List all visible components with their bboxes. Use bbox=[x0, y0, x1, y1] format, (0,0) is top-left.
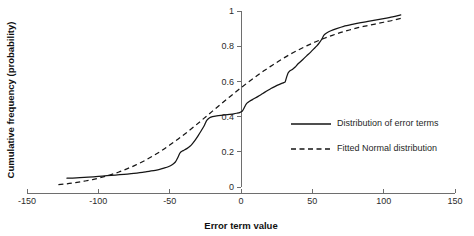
y-axis-title: Cumulative frequency (probability) bbox=[5, 22, 16, 179]
x-tick-label: 100 bbox=[376, 196, 391, 206]
data-series-group bbox=[58, 15, 400, 185]
y-tick-label: 0.2 bbox=[221, 147, 234, 157]
y-tick-label: 0.8 bbox=[221, 41, 234, 51]
x-tick-label: -150 bbox=[18, 196, 36, 206]
y-tick-label: 0.6 bbox=[221, 77, 234, 87]
x-axis: -150-100-50050100150 bbox=[18, 189, 463, 206]
x-axis-title: Error term value bbox=[204, 220, 277, 231]
cumulative-frequency-chart: -150-100-50050100150 00.20.40.60.81 Dist… bbox=[0, 0, 474, 236]
legend-label: Distribution of error terms bbox=[337, 118, 439, 128]
x-tick-label: -100 bbox=[89, 196, 107, 206]
x-tick-label: 0 bbox=[238, 196, 243, 206]
chart-legend: Distribution of error termsFitted Normal… bbox=[291, 118, 439, 153]
x-tick-label: 50 bbox=[307, 196, 317, 206]
y-tick-label: 0.4 bbox=[221, 112, 234, 122]
y-tick-label: 1 bbox=[229, 6, 234, 16]
x-tick-label: -50 bbox=[163, 196, 176, 206]
y-axis: 00.20.40.60.81 bbox=[221, 6, 241, 192]
y-tick-label: 0 bbox=[229, 182, 234, 192]
x-tick-label: 150 bbox=[447, 196, 462, 206]
legend-label: Fitted Normal distribution bbox=[337, 143, 437, 153]
figure-container: -150-100-50050100150 00.20.40.60.81 Dist… bbox=[0, 0, 474, 236]
